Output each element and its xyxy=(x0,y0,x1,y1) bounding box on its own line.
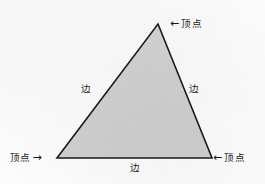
arrow-left-icon: ← xyxy=(170,18,179,29)
vertex-label-bottom-left-text: 顶点 xyxy=(10,153,30,163)
arrow-right-icon: → xyxy=(32,152,41,163)
vertex-label-bottom-right: ← 顶点 xyxy=(213,152,245,163)
side-label-right: 边 xyxy=(189,84,199,94)
arrow-left-icon: ← xyxy=(213,152,222,163)
vertex-label-bottom-left: 顶点 → xyxy=(10,152,42,163)
triangle-diagram: ← 顶点 顶点 → ← 顶点 边 边 边 xyxy=(0,0,265,184)
side-label-left: 边 xyxy=(81,84,91,94)
vertex-label-top: ← 顶点 xyxy=(170,18,202,29)
vertex-label-top-text: 顶点 xyxy=(181,19,201,29)
side-label-bottom: 边 xyxy=(130,163,140,173)
vertex-label-bottom-right-text: 顶点 xyxy=(224,153,244,163)
